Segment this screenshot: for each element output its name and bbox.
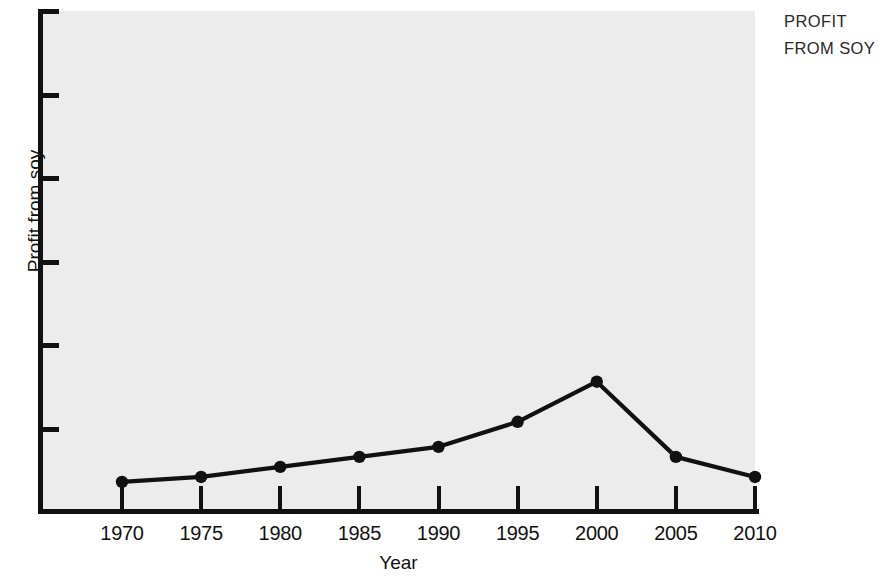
x-axis-tick (278, 486, 282, 512)
x-axis-tick-label: 1990 (399, 522, 479, 545)
x-axis-tick-label: 1970 (82, 522, 162, 545)
x-axis-tick (199, 486, 203, 512)
x-axis-tick (753, 486, 757, 512)
x-axis-tick (437, 486, 441, 512)
x-axis-tick-label: 2000 (557, 522, 637, 545)
y-axis-tick (42, 93, 59, 98)
x-axis-label: Year (42, 552, 755, 574)
x-axis-spine (38, 509, 759, 514)
y-axis-label: Profit from soy (24, 121, 46, 301)
x-axis-tick-label: 1975 (161, 522, 241, 545)
x-axis-tick-label: 1985 (319, 522, 399, 545)
annotation-line-2: FROM SOY (784, 35, 875, 62)
x-axis-tick-label: 2005 (636, 522, 716, 545)
x-axis-tick (357, 486, 361, 512)
x-axis-tick (595, 486, 599, 512)
y-axis-tick (42, 427, 59, 432)
annotation-profit-from-soy: PROFIT FROM SOY (784, 8, 875, 62)
x-axis-tick-label: 1980 (240, 522, 320, 545)
x-axis-tick (516, 486, 520, 512)
y-axis-tick (42, 343, 59, 348)
x-axis-tick (674, 486, 678, 512)
annotation-line-1: PROFIT (784, 8, 875, 35)
x-axis-tick (120, 486, 124, 512)
x-axis-tick-label: 2010 (715, 522, 795, 545)
chart-figure: 197019751980198519901995200020052010 Yea… (0, 0, 883, 581)
x-axis-tick-label: 1995 (478, 522, 558, 545)
y-axis-tick (42, 9, 59, 14)
plot-area (42, 11, 755, 512)
